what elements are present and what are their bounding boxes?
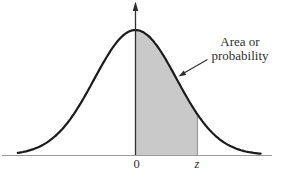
z-tick-label: z [193,157,199,171]
annotation-text-line1: Area or [220,34,260,49]
shaded-area-probability [136,30,198,155]
annotation-arrowhead-icon [179,71,187,77]
y-axis-arrowhead-icon [133,2,139,12]
annotation-leader-line [184,60,208,74]
annotation-text-line2: probability [211,48,269,63]
figure-canvas: Area or probability 0 z [0,0,284,172]
zero-tick-label: 0 [133,157,139,171]
normal-distribution-figure: Area or probability 0 z [0,0,284,172]
